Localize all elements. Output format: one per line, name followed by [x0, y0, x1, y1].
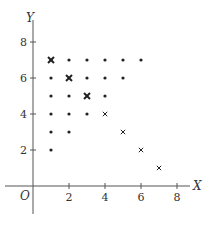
- dot-marker: [49, 112, 52, 115]
- dot-marker: [85, 58, 88, 61]
- y-tick-label: 8: [20, 36, 27, 49]
- x-tick-label: 2: [66, 191, 73, 204]
- cross-marker: [121, 130, 125, 134]
- x-tick-label: 6: [138, 191, 145, 204]
- dot-marker: [85, 112, 88, 115]
- bold-cross-marker: [84, 93, 90, 99]
- y-tick-label: 6: [20, 72, 27, 85]
- data-markers: [48, 57, 161, 170]
- dot-marker: [103, 58, 106, 61]
- scatter-plot: 24682468 X Y O: [0, 0, 212, 225]
- dot-marker: [121, 76, 124, 79]
- y-tick-label: 4: [20, 108, 27, 121]
- cross-marker: [157, 166, 161, 170]
- dot-marker: [67, 58, 70, 61]
- dot-marker: [49, 148, 52, 151]
- x-axis-label: X: [192, 179, 202, 193]
- ticks: 24682468: [20, 36, 181, 204]
- origin-label: O: [20, 189, 30, 203]
- dot-marker: [67, 94, 70, 97]
- axes: [5, 20, 190, 214]
- x-tick-label: 8: [174, 191, 181, 204]
- dot-marker: [103, 94, 106, 97]
- bold-cross-marker: [48, 57, 54, 63]
- x-tick-label: 4: [102, 191, 109, 204]
- dot-marker: [49, 76, 52, 79]
- dot-marker: [67, 112, 70, 115]
- dot-marker: [121, 58, 124, 61]
- dot-marker: [67, 130, 70, 133]
- dot-marker: [49, 94, 52, 97]
- y-axis-label: Y: [26, 11, 35, 25]
- y-tick-label: 2: [20, 144, 27, 157]
- dot-marker: [139, 58, 142, 61]
- cross-marker: [139, 148, 143, 152]
- dot-marker: [85, 76, 88, 79]
- dot-marker: [49, 130, 52, 133]
- cross-marker: [103, 112, 107, 116]
- dot-marker: [103, 76, 106, 79]
- bold-cross-marker: [66, 75, 72, 81]
